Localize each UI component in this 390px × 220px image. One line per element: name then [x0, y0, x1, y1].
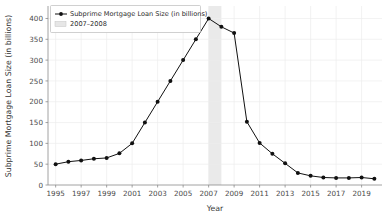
- x-tick-label: 2003: [148, 189, 166, 198]
- data-point: [372, 177, 376, 181]
- data-point: [105, 156, 109, 160]
- legend-label-series: Subprime Mortgage Loan Size (in billions…: [70, 10, 207, 18]
- x-tick-label: 2009: [225, 189, 244, 198]
- data-point: [334, 176, 338, 180]
- x-tick-label: 2007: [199, 189, 217, 198]
- data-point: [347, 176, 351, 180]
- data-point: [143, 121, 147, 125]
- data-point: [156, 100, 160, 104]
- y-tick-label: 250: [29, 77, 43, 86]
- data-point: [194, 37, 198, 41]
- y-tick-label: 400: [29, 14, 43, 23]
- data-point: [130, 141, 134, 145]
- x-tick-label: 2013: [276, 189, 294, 198]
- data-point: [245, 120, 249, 124]
- data-point: [283, 161, 287, 165]
- data-point: [309, 174, 313, 178]
- y-tick-label: 100: [29, 139, 43, 148]
- x-axis-title: Year: [206, 204, 224, 213]
- legend-label-span: 2007–2008: [70, 20, 107, 28]
- data-point: [258, 141, 262, 145]
- x-tick-label: 2001: [123, 189, 141, 198]
- x-tick-label: 2015: [301, 189, 319, 198]
- y-tick-label: 0: [38, 181, 43, 190]
- data-point: [168, 79, 172, 83]
- data-point: [360, 176, 364, 180]
- legend-marker-sample: [59, 12, 63, 16]
- data-point: [79, 158, 83, 162]
- data-point: [270, 152, 274, 156]
- x-axis-ticks: 1995199719992001200320052007200920112013…: [47, 185, 372, 198]
- y-axis-ticks: 050100150200250300350400: [29, 14, 48, 190]
- y-tick-label: 300: [29, 56, 43, 65]
- x-tick-label: 1997: [72, 189, 90, 198]
- data-point: [219, 25, 223, 29]
- line-chart: 050100150200250300350400 199519971999200…: [0, 0, 390, 220]
- x-tick-label: 2005: [174, 189, 192, 198]
- x-tick-label: 1999: [97, 189, 116, 198]
- data-point: [92, 157, 96, 161]
- data-point: [232, 31, 236, 35]
- recession-span-2007-2008: [209, 6, 222, 185]
- data-point: [296, 171, 300, 175]
- data-point: [54, 162, 58, 166]
- y-tick-label: 350: [29, 35, 43, 44]
- data-point: [66, 160, 70, 164]
- chart-legend[interactable]: Subprime Mortgage Loan Size (in billions…: [51, 6, 208, 33]
- legend-entry-series[interactable]: Subprime Mortgage Loan Size (in billions…: [55, 10, 207, 18]
- x-tick-label: 2019: [352, 189, 371, 198]
- y-tick-label: 200: [29, 97, 43, 106]
- data-point: [181, 58, 185, 62]
- y-tick-label: 150: [29, 118, 43, 127]
- x-tick-label: 2017: [327, 189, 345, 198]
- y-axis-title: Subprime Mortgage Loan Size (in billions…: [4, 15, 13, 177]
- legend-swatch-span: [55, 22, 66, 27]
- data-point: [117, 151, 121, 155]
- y-tick-label: 50: [34, 160, 44, 169]
- chart-figure: 050100150200250300350400 199519971999200…: [0, 0, 390, 220]
- x-tick-label: 2011: [250, 189, 268, 198]
- data-point: [321, 176, 325, 180]
- x-tick-label: 1995: [47, 189, 65, 198]
